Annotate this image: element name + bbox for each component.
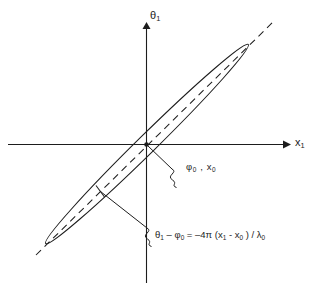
leader-line-equation (101, 192, 152, 247)
point-annotation-label: φ0 , x0 (186, 162, 216, 173)
diagram-canvas (0, 0, 319, 294)
axes-group (8, 28, 284, 283)
x-axis-arrowhead (283, 141, 291, 149)
dashed-center-line (36, 21, 274, 255)
y-axis-arrowhead (143, 22, 151, 29)
equation-annotation-label: θ1 – φ0 = –4π (x1 - x0 ) / λ0 (155, 230, 265, 241)
x-axis-label: x1 (295, 137, 305, 150)
y-axis-label: θ1 (150, 10, 160, 23)
phase-position-diagram: θ1 x1 φ0 , x0 θ1 – φ0 = –4π (x1 - x0 ) /… (0, 0, 319, 294)
